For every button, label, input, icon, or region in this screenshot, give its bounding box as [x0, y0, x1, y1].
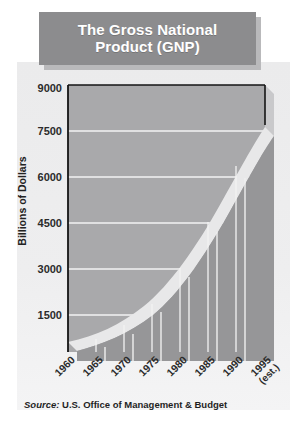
y-tick-1500: 1500 — [10, 309, 62, 321]
y-tick-7500: 7500 — [10, 125, 62, 137]
y-tick-9000: 9000 — [10, 82, 62, 94]
source-organization: U.S. Office of Management & Budget — [62, 399, 227, 410]
y-tick-3000: 3000 — [10, 263, 62, 275]
y-tick-4500: 4500 — [10, 217, 62, 229]
source-label: Source: — [24, 399, 59, 410]
y-axis-title: Billions of Dollars — [16, 146, 28, 256]
y-tick-6000: 6000 — [10, 171, 62, 183]
source-note: Source: U.S. Office of Management & Budg… — [24, 399, 227, 410]
